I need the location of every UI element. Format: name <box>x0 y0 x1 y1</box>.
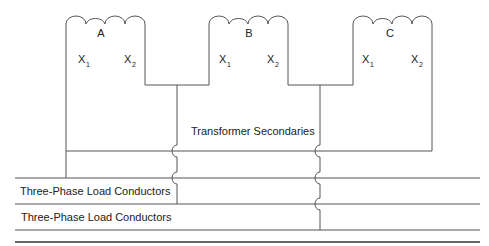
coil-b-x2-label: X <box>267 53 275 65</box>
transformer-secondaries-label: Transformer Secondaries <box>191 125 315 137</box>
bc-tap-conductor <box>315 85 320 230</box>
coil-c-label: C <box>386 27 394 39</box>
load-conductors-label-2: Three-Phase Load Conductors <box>21 211 172 223</box>
coil-c-x2-label: X <box>411 53 419 65</box>
coil-b-x2-subscript: 2 <box>275 61 279 68</box>
transformer-wiring-diagram: A X 1 X 2 B X 1 X 2 C X 1 X 2 Transforme… <box>0 0 489 246</box>
coil-a-x1-label: X <box>78 53 86 65</box>
coil-a-x2-label: X <box>124 53 132 65</box>
coil-c: C X 1 X 2 <box>353 16 432 151</box>
coil-b-x1-subscript: 1 <box>227 61 231 68</box>
coil-b-label: B <box>245 27 252 39</box>
coil-b: B X 1 X 2 <box>209 16 288 85</box>
coil-a-winding <box>66 16 145 178</box>
coil-c-x1-label: X <box>362 53 370 65</box>
coil-b-x1-label: X <box>219 53 227 65</box>
load-conductors-label-1: Three-Phase Load Conductors <box>20 185 171 197</box>
coil-a-label: A <box>97 27 105 39</box>
coil-a-x1-subscript: 1 <box>86 61 90 68</box>
coil-c-x2-subscript: 2 <box>419 61 423 68</box>
coil-c-x1-subscript: 1 <box>370 61 374 68</box>
ab-tap-conductor <box>172 85 177 204</box>
coil-a: A X 1 X 2 <box>66 16 145 178</box>
coil-a-x2-subscript: 2 <box>132 61 136 68</box>
